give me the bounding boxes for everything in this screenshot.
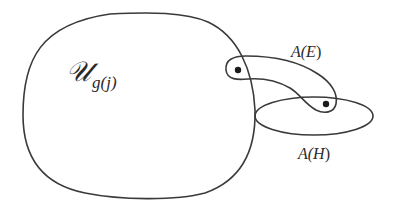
- set-ae-boundary: [226, 56, 336, 112]
- set-ah-label-suffix: ): [325, 145, 330, 162]
- set-u-label-main: 𝒰: [66, 56, 91, 87]
- set-ae-label-suffix: ): [316, 43, 321, 60]
- point-p2: [323, 101, 329, 107]
- point-p1: [235, 67, 241, 73]
- set-u-boundary: [23, 13, 255, 199]
- set-u-label-sub: g(j): [92, 73, 117, 92]
- set-ah-label-prefix: A(: [298, 145, 313, 162]
- set-u-label: 𝒰g(j): [66, 58, 117, 86]
- set-ae-label-prefix: A(: [291, 43, 306, 60]
- set-ah-boundary: [255, 97, 373, 135]
- set-ae-label: A(E): [291, 44, 321, 60]
- set-ae-label-var: E: [306, 43, 316, 60]
- set-ah-label: A(H): [298, 146, 330, 162]
- set-ah-label-var: H: [313, 145, 325, 162]
- diagram-canvas: [0, 0, 397, 205]
